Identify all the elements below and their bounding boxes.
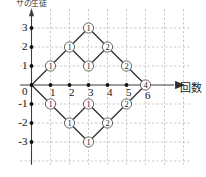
lattice-node: 1 <box>64 42 74 52</box>
lattice-node: 2 <box>102 42 112 52</box>
lattice-node-count: 2 <box>105 118 109 128</box>
tick-label-x-5: 5 <box>122 86 132 98</box>
lattice-node-count: 2 <box>105 42 109 52</box>
tick-label-origin: 0 <box>18 85 28 97</box>
lattice-node-count: 1 <box>48 99 52 109</box>
y-axis-caption: サの生徒 <box>16 0 47 8</box>
tick-label-x-3: 3 <box>84 86 94 98</box>
lattice-node: 1 <box>83 137 93 147</box>
lattice-node: 2 <box>121 99 131 109</box>
figure-canvas: 1111111122224 0123456321-1-2-3 サの生徒 回数 <box>0 0 206 177</box>
lattice-node-count: 1 <box>86 99 90 109</box>
lattice-node-count: 2 <box>124 61 128 71</box>
lattice-node-count: 1 <box>48 61 52 71</box>
lattice-node-count: 1 <box>67 118 71 128</box>
lattice-node: 2 <box>102 118 112 128</box>
tick-label-x-4: 4 <box>103 86 113 98</box>
lattice-node-count: 1 <box>67 42 71 52</box>
tick-label-y-1: 1 <box>12 59 28 71</box>
lattice-node-count: 1 <box>86 61 90 71</box>
tick-label-y-neg1: -1 <box>12 97 28 109</box>
tick-label-y-neg2: -2 <box>12 116 28 128</box>
tick-label-y-3: 3 <box>12 21 28 33</box>
lattice-node: 1 <box>45 61 55 71</box>
lattice-node-count: 1 <box>86 23 90 33</box>
lattice-node: 2 <box>121 61 131 71</box>
x-axis-caption: 回数 <box>180 79 202 95</box>
lattice-node: 1 <box>64 118 74 128</box>
tick-label-y-2: 2 <box>12 40 28 52</box>
tick-label-x-1: 1 <box>46 86 56 98</box>
tick-label-x-6: 6 <box>141 89 151 101</box>
lattice-node-count: 2 <box>124 99 128 109</box>
lattice-node-count: 1 <box>86 137 90 147</box>
lattice-node: 1 <box>83 61 93 71</box>
lattice-node: 1 <box>45 99 55 109</box>
lattice-node: 1 <box>83 99 93 109</box>
tick-label-x-2: 2 <box>65 86 75 98</box>
lattice-node: 1 <box>83 23 93 33</box>
tick-label-y-neg3: -3 <box>12 135 28 147</box>
